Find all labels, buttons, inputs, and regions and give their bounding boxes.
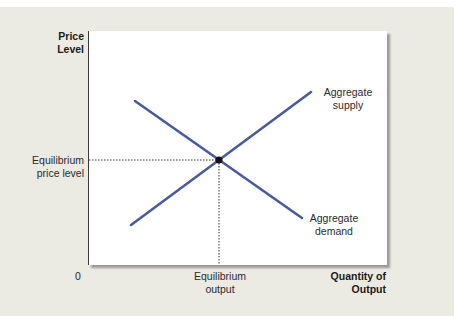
aggregate-demand-label-line1: Aggregate xyxy=(299,212,369,225)
equilibrium-price-label: Equilibrium price level xyxy=(10,154,84,180)
equilibrium-output-label: Equilibrium output xyxy=(180,270,260,296)
equilibrium-point xyxy=(215,156,222,163)
aggregate-supply-label-line2: supply xyxy=(313,99,383,112)
aggregate-supply-label: Aggregate supply xyxy=(313,86,383,112)
x-axis-label: Quantity of Output xyxy=(316,270,386,296)
equilibrium-output-label-line1: Equilibrium xyxy=(180,270,260,283)
equilibrium-price-label-line2: price level xyxy=(10,167,84,180)
x-axis-label-line1: Quantity of xyxy=(316,270,386,283)
origin-label: 0 xyxy=(75,270,81,283)
y-axis-label-line1: Price xyxy=(40,30,84,43)
x-axis-label-line2: Output xyxy=(316,283,386,296)
equilibrium-price-label-line1: Equilibrium xyxy=(10,154,84,167)
aggregate-demand-label: Aggregate demand xyxy=(299,212,369,238)
y-axis-label: Price Level xyxy=(40,30,84,56)
y-axis-label-line2: Level xyxy=(40,43,84,56)
equilibrium-output-label-line2: output xyxy=(180,283,260,296)
aggregate-supply-label-line1: Aggregate xyxy=(313,86,383,99)
aggregate-demand-label-line2: demand xyxy=(299,225,369,238)
